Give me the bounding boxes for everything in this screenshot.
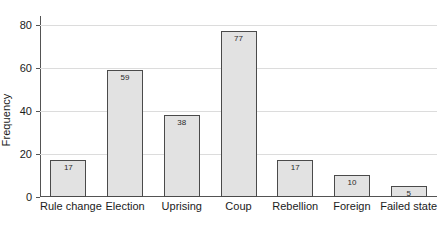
y-tick-label: 40: [4, 106, 32, 117]
bar: 59: [107, 70, 143, 197]
bar: 17: [50, 160, 86, 197]
bar-value-label: 17: [51, 164, 85, 172]
bar-value-label: 10: [335, 179, 369, 187]
y-tick-label: 80: [4, 20, 32, 31]
bar-value-label: 17: [278, 164, 312, 172]
bar-value-label: 59: [108, 74, 142, 82]
bar: 77: [221, 31, 257, 197]
bar: 10: [334, 175, 370, 197]
x-category-label: Coup: [210, 200, 267, 212]
y-tick-label: 20: [4, 149, 32, 160]
bars-layer: 1759387717105: [40, 16, 437, 197]
y-tick-mark: [36, 197, 40, 198]
y-tick: 0: [0, 192, 32, 193]
x-category-label: Failed state: [380, 200, 437, 212]
x-category-label: Rule change: [40, 200, 97, 212]
x-category-label: Uprising: [153, 200, 210, 212]
bar: 5: [391, 186, 427, 197]
bar-value-label: 77: [222, 35, 256, 43]
bar-value-label: 5: [392, 190, 426, 198]
y-tick: 40: [0, 106, 32, 107]
bar-chart: Frequency 020406080 1759387717105 Rule c…: [0, 0, 440, 226]
y-tick: 80: [0, 20, 32, 21]
bar-value-label: 38: [165, 119, 199, 127]
bar: 38: [164, 115, 200, 197]
x-category-label: Rebellion: [267, 200, 324, 212]
x-category-label: Election: [97, 200, 154, 212]
y-tick-label: 60: [4, 63, 32, 74]
y-tick-label: 0: [4, 192, 32, 203]
y-tick: 20: [0, 149, 32, 150]
x-category-label: Foreign: [324, 200, 381, 212]
y-tick: 60: [0, 63, 32, 64]
bar: 17: [277, 160, 313, 197]
